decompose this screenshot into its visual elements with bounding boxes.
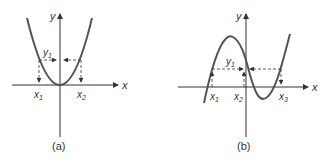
x-axis-label: x (311, 81, 318, 93)
figure: y x y1 x1 x2 (a) y x y1 x1 x2 x3 (b) (0, 0, 333, 167)
caption-b: (b) (237, 140, 250, 152)
x-axis-label: x (121, 79, 128, 91)
caption-a: (a) (52, 140, 65, 152)
y-axis-label: y (235, 10, 243, 22)
root-label-x1: x1 (209, 91, 219, 103)
cubic-curve (204, 34, 290, 103)
root-label-x2: x2 (76, 89, 86, 101)
root-label-x2: x2 (233, 91, 243, 103)
panel-a: y x y1 x1 x2 (a) (12, 10, 128, 152)
level-label: y1 (225, 56, 235, 68)
level-label: y1 (42, 47, 52, 59)
panel-b: y x y1 x1 x2 x3 (b) (178, 10, 318, 152)
y-axis-label: y (49, 10, 57, 22)
root-label-x3: x3 (278, 91, 288, 103)
root-label-x1: x1 (33, 89, 43, 101)
